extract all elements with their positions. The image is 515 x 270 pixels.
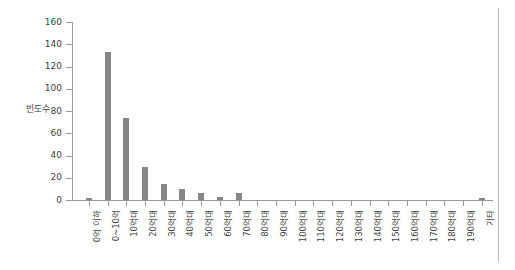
y-tick-mark xyxy=(66,89,72,90)
y-tick-label: 60 xyxy=(14,129,62,138)
y-tick-label-text: 120 xyxy=(16,62,62,71)
x-axis-label: 150억대 xyxy=(392,210,401,242)
x-tick-mark xyxy=(257,201,258,206)
x-tick-mark xyxy=(370,201,371,206)
x-axis-label: 170억대 xyxy=(430,210,439,242)
x-tick-mark xyxy=(463,201,464,206)
y-tick-label-text: 80 xyxy=(16,107,62,116)
x-tick-mark xyxy=(351,201,352,206)
y-tick-label-text: 140 xyxy=(16,40,62,49)
bar-chart-figure: 빈도수 020406080100120140160 0억 이하0~10억10억대… xyxy=(0,0,515,270)
x-axis-label: 100억대 xyxy=(299,210,308,242)
y-tick-label-text: 60 xyxy=(16,129,62,138)
bar xyxy=(217,197,223,200)
x-axis-label: 110억대 xyxy=(317,210,326,242)
bar xyxy=(198,193,204,200)
x-axis-line xyxy=(72,200,493,201)
x-tick-mark xyxy=(407,201,408,206)
bar xyxy=(123,118,129,200)
x-axis-label: 120억대 xyxy=(336,210,345,242)
y-tick-mark xyxy=(66,44,72,45)
y-tick-label-text: 0 xyxy=(16,196,62,205)
y-tick-label: 20 xyxy=(14,173,62,182)
x-tick-mark xyxy=(239,201,240,206)
page-edge-rule xyxy=(498,8,499,262)
y-tick-label-text: 20 xyxy=(16,173,62,182)
y-axis-line xyxy=(72,22,73,201)
x-tick-mark xyxy=(426,201,427,206)
x-axis-label: 70억대 xyxy=(243,210,252,237)
x-axis-label: 10억대 xyxy=(130,210,139,237)
x-axis-label: 80억대 xyxy=(261,210,270,237)
x-tick-mark xyxy=(388,201,389,206)
x-tick-mark xyxy=(126,201,127,206)
x-axis-label: 50억대 xyxy=(205,210,214,237)
x-tick-mark xyxy=(276,201,277,206)
x-tick-mark xyxy=(182,201,183,206)
x-tick-mark xyxy=(220,201,221,206)
x-tick-mark xyxy=(145,201,146,206)
x-tick-mark xyxy=(444,201,445,206)
y-tick-label: 40 xyxy=(14,151,62,160)
y-tick-mark xyxy=(66,133,72,134)
bar xyxy=(161,184,167,200)
y-tick-label-text: 100 xyxy=(16,84,62,93)
x-axis-label: 160억대 xyxy=(411,210,420,242)
y-tick-label-text: 160 xyxy=(16,18,62,27)
bar xyxy=(479,198,485,200)
bar xyxy=(179,189,185,200)
y-tick-mark xyxy=(66,111,72,112)
x-axis-label: 40억대 xyxy=(186,210,195,237)
bar xyxy=(86,198,92,200)
x-tick-mark xyxy=(482,201,483,206)
x-tick-mark xyxy=(201,201,202,206)
x-tick-mark xyxy=(332,201,333,206)
y-tick-label-text: 40 xyxy=(16,151,62,160)
x-axis-label: 30억대 xyxy=(168,210,177,237)
x-tick-mark xyxy=(295,201,296,206)
y-tick-mark xyxy=(66,67,72,68)
x-tick-mark xyxy=(164,201,165,206)
y-tick-mark xyxy=(66,156,72,157)
x-axis-label: 0~10억 xyxy=(112,210,121,241)
x-axis-label: 180억대 xyxy=(448,210,457,242)
x-tick-mark xyxy=(108,201,109,206)
x-axis-label: 140억대 xyxy=(374,210,383,242)
y-tick-label: 120 xyxy=(14,62,62,71)
x-axis-label: 60억대 xyxy=(224,210,233,237)
x-tick-mark xyxy=(313,201,314,206)
x-axis-label: 기타 xyxy=(486,210,495,226)
y-tick-mark xyxy=(66,178,72,179)
bar xyxy=(142,167,148,200)
x-axis-label: 20억대 xyxy=(149,210,158,237)
y-tick-mark xyxy=(66,22,72,23)
bar xyxy=(105,52,111,200)
y-tick-label: 160 xyxy=(14,18,62,27)
bar xyxy=(236,193,242,200)
y-tick-label: 80 xyxy=(14,107,62,116)
y-tick-mark xyxy=(66,200,72,201)
x-axis-label: 90억대 xyxy=(280,210,289,237)
x-tick-mark xyxy=(89,201,90,206)
y-tick-label: 0 xyxy=(14,196,62,205)
x-axis-label: 190억대 xyxy=(467,210,476,242)
x-axis-label: 130억대 xyxy=(355,210,364,242)
y-tick-label: 100 xyxy=(14,84,62,93)
x-axis-label: 0억 이하 xyxy=(93,210,102,242)
y-tick-label: 140 xyxy=(14,40,62,49)
